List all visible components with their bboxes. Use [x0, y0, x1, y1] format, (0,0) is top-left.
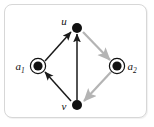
node-label-a1: a1 — [15, 60, 24, 75]
node-v-dot — [72, 100, 82, 110]
edge-a2-to-v — [84, 72, 111, 101]
figure-root: u a1 a2 v — [0, 0, 154, 127]
node-a2[interactable] — [109, 58, 124, 73]
edge-u-to-a2 — [83, 32, 110, 60]
node-label-u: u — [61, 15, 67, 27]
directed-graph-canvas: u a1 a2 v — [0, 0, 154, 127]
node-u-dot — [72, 23, 82, 33]
node-a1-dot — [33, 61, 42, 70]
edge-v-to-a1 — [45, 72, 71, 101]
node-a1[interactable] — [30, 58, 45, 73]
node-v[interactable] — [72, 100, 82, 110]
edge-group — [45, 32, 111, 101]
node-a2-dot — [112, 61, 121, 70]
edge-a1-to-u — [45, 32, 71, 61]
node-label-a2: a2 — [127, 60, 137, 75]
node-u[interactable] — [72, 23, 82, 33]
node-label-a2-subscript: 2 — [133, 66, 137, 75]
node-label-a1-subscript: 1 — [21, 66, 25, 75]
node-label-v: v — [62, 100, 67, 112]
